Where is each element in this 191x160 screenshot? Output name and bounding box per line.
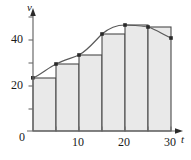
bar-2 bbox=[79, 55, 102, 131]
marker-4 bbox=[123, 23, 127, 27]
plot-canvas bbox=[0, 0, 191, 160]
bar-1 bbox=[56, 64, 79, 131]
origin-label: 0 bbox=[19, 131, 25, 143]
y-axis-label: v bbox=[27, 2, 32, 13]
marker-2 bbox=[77, 53, 81, 57]
x-tick-label-20: 20 bbox=[118, 136, 130, 148]
marker-1 bbox=[54, 62, 58, 66]
y-tick-label-20: 20 bbox=[11, 79, 23, 91]
y-tick-label-40: 40 bbox=[11, 33, 23, 45]
marker-5 bbox=[146, 25, 150, 29]
bar-0 bbox=[33, 78, 56, 131]
bar-5 bbox=[148, 27, 171, 131]
bar-3 bbox=[102, 34, 125, 131]
bar-4 bbox=[125, 25, 148, 131]
velocity-time-riemann-sum-figure: v t 0 40 20 10 20 30 bbox=[0, 0, 191, 160]
x-axis-label: t bbox=[181, 134, 184, 145]
riemann-rectangles bbox=[33, 25, 171, 131]
marker-3 bbox=[100, 32, 104, 36]
x-tick-label-30: 30 bbox=[164, 136, 176, 148]
marker-6 bbox=[169, 36, 173, 40]
x-tick-label-10: 10 bbox=[72, 136, 84, 148]
